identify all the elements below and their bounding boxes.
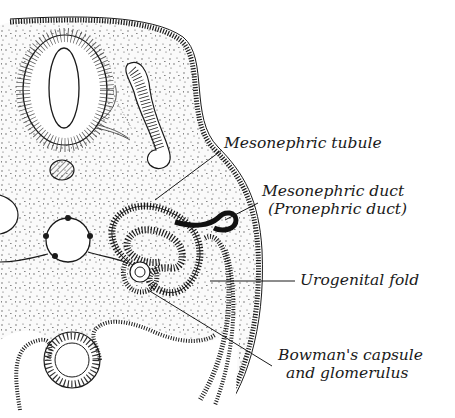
label-mesonephric-duct: Mesonephric duct (Pronephric duct)	[262, 182, 407, 218]
label-mesonephric-tubule: Mesonephric tubule	[224, 134, 382, 152]
neural-tube	[23, 35, 107, 145]
label-bowmans-capsule: Bowman's capsule and glomerulus	[278, 346, 423, 382]
notochord	[50, 160, 74, 180]
label-urogenital-fold: Urogenital fold	[300, 271, 419, 289]
gut-tube	[44, 332, 100, 388]
